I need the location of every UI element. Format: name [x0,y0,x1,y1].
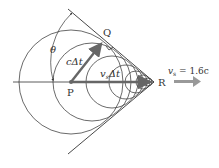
label-r: R [158,77,166,88]
point-p [69,80,73,84]
label-theta: θ [50,44,56,55]
label-c-dt: cΔt [66,56,84,67]
velocity-arrow-icon [174,76,201,87]
cone-lower-line [68,82,154,154]
label-q: Q [103,27,111,38]
shock-wave-diagram: θ Q P R cΔt vsΔt vs = 1.6c [0,0,219,168]
label-p: P [67,87,74,98]
label-source-speed: vs = 1.6c [168,66,209,77]
label-vs-dt: vsΔt [100,68,121,80]
